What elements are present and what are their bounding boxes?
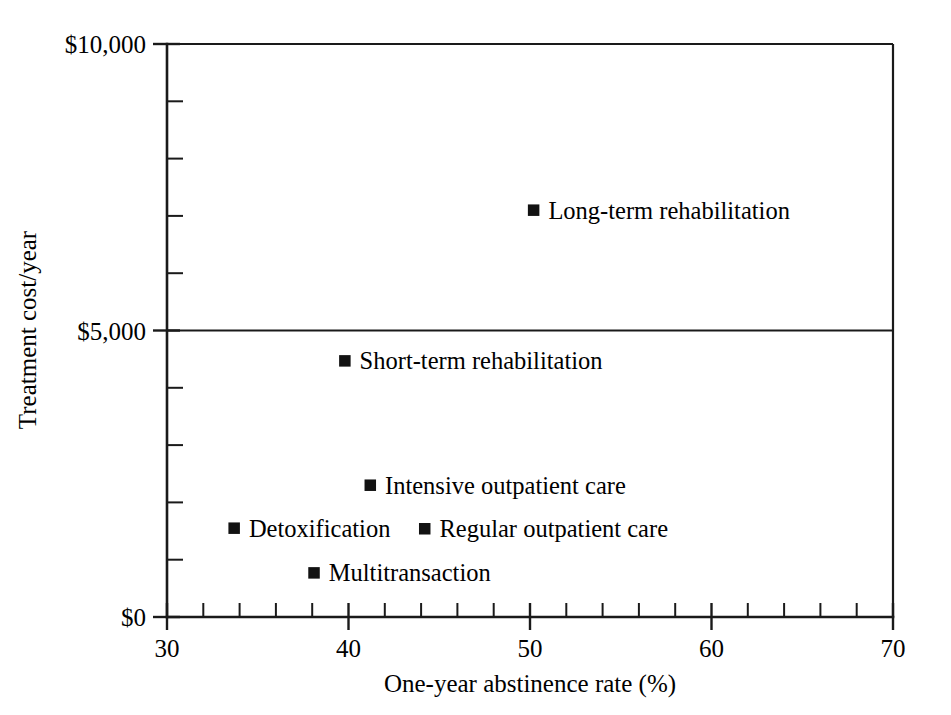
x-tick-label-70: 70 bbox=[881, 635, 906, 662]
x-tick-label-40: 40 bbox=[336, 635, 361, 662]
data-point-marker[interactable] bbox=[528, 204, 540, 216]
y-axis-title: Treatment cost/year bbox=[14, 230, 41, 429]
data-series: Long-term rehabilitationShort-term rehab… bbox=[228, 197, 790, 587]
x-axis-labels: 30 40 50 60 70 bbox=[155, 635, 906, 662]
data-point-marker[interactable] bbox=[365, 479, 377, 491]
y-tick-label-0: $0 bbox=[121, 604, 146, 631]
plot-area: $10,000 $5,000 $0 30 40 50 60 70 One-yea… bbox=[0, 0, 951, 715]
x-tick-label-60: 60 bbox=[699, 635, 724, 662]
scatter-chart: $10,000 $5,000 $0 30 40 50 60 70 One-yea… bbox=[0, 0, 951, 715]
y-tick-label-10000: $10,000 bbox=[65, 31, 146, 58]
data-point-marker[interactable] bbox=[339, 355, 351, 367]
x-tick-label-50: 50 bbox=[518, 635, 543, 662]
data-point-label: Regular outpatient care bbox=[439, 515, 668, 542]
data-point-label: Short-term rehabilitation bbox=[360, 347, 603, 374]
data-point-label: Intensive outpatient care bbox=[385, 472, 626, 499]
x-tick-label-30: 30 bbox=[155, 635, 180, 662]
data-point-marker[interactable] bbox=[419, 523, 431, 535]
data-point-marker[interactable] bbox=[308, 567, 320, 579]
x-axis-title: One-year abstinence rate (%) bbox=[384, 670, 676, 698]
y-axis-labels: $10,000 $5,000 $0 bbox=[65, 31, 146, 631]
data-point-marker[interactable] bbox=[228, 522, 240, 534]
data-point-label: Detoxification bbox=[249, 515, 391, 542]
data-point-label: Multitransaction bbox=[329, 559, 491, 586]
y-tick-label-5000: $5,000 bbox=[77, 318, 146, 345]
data-point-label: Long-term rehabilitation bbox=[548, 197, 790, 224]
x-axis-ticks bbox=[167, 603, 893, 630]
